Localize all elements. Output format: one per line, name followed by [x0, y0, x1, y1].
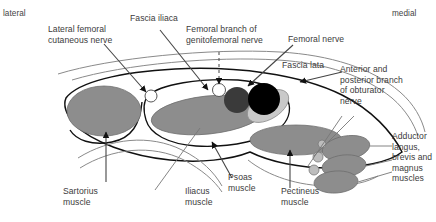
anatomy-figure: lateral medial Lateral femoral cutaneous… [0, 0, 436, 222]
sartorius-muscle [67, 86, 141, 136]
limb-contour-upper [78, 140, 222, 186]
leader-adductor-brevis [366, 160, 392, 166]
femoral-branch-genitofemoral-nerve-node [213, 84, 226, 97]
limb-contour-lower [80, 150, 222, 192]
obturator-nerve-posterior-branch-node [309, 165, 319, 175]
adductor-magnus-muscle [313, 169, 358, 194]
leader-fascia-lata [300, 72, 342, 82]
lateral-femoral-cutaneous-nerve-node [145, 90, 157, 102]
femoral-artery [224, 87, 250, 113]
leader-lateral-femoral-cutaneous-nerve [104, 44, 146, 92]
leader-adductor-magnus [358, 172, 392, 182]
femoral-vein [248, 83, 280, 115]
anatomy-drawing [0, 0, 436, 222]
